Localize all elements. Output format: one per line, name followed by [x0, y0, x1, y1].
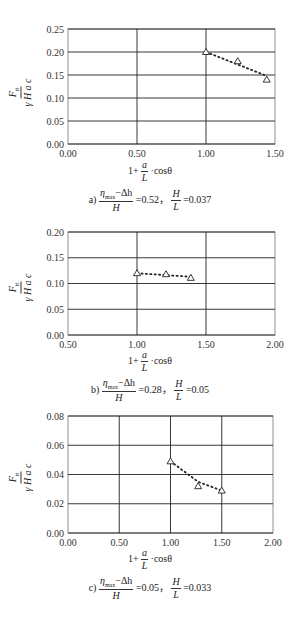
- y-axis-label-c: Fttγ H a c: [8, 448, 33, 508]
- triangle-marker-icon: [167, 458, 174, 464]
- x-tick-label: 0.50: [111, 537, 129, 548]
- x-axis-label-c: 1+ aL ·cosθ: [0, 548, 300, 571]
- y-tick-label: 0.04: [47, 469, 65, 480]
- caption-b: b) ηmax−ΔhH =0.28， HL =0.05: [0, 378, 300, 403]
- caption-a: a) ηmax−ΔhH =0.52， HL =0.037: [0, 188, 300, 213]
- x-axis-label-a: 1+ aL ·cosθ: [0, 160, 300, 183]
- x-tick-label: 2.00: [264, 537, 282, 548]
- y-tick-label: 0.06: [47, 440, 65, 451]
- y-tick-label: 0.02: [47, 498, 65, 509]
- triangle-marker-icon: [195, 483, 202, 489]
- x-tick-label: 1.50: [213, 537, 231, 548]
- x-tick-label: 1.00: [162, 537, 180, 548]
- y-axis-label-a: Fttγ H a c: [8, 63, 33, 123]
- x-axis-label-b: 1+ aL ·cosθ: [0, 350, 300, 373]
- y-tick-label: 0.08: [47, 411, 65, 422]
- y-axis-label-b: Fttγ H a c: [8, 258, 33, 318]
- x-tick-label: 0.00: [59, 537, 77, 548]
- caption-c: c) ηmax−ΔhH =0.05， HL =0.033: [0, 576, 300, 601]
- chart-c-plot: 0.000.020.040.060.080.000.501.001.502.00: [0, 0, 300, 618]
